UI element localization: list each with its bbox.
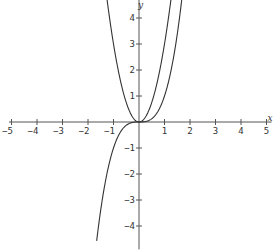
x-tick-label: −5 [2, 126, 13, 136]
y-tick-label: 2 [130, 65, 135, 75]
axes [9, 0, 272, 249]
x-tick-label: 5 [264, 126, 269, 136]
y-tick-label: 3 [130, 39, 135, 49]
x-tick-label: −1 [104, 126, 115, 136]
y-tick-label: −3 [124, 195, 135, 205]
y-tick-label: 1 [130, 91, 135, 101]
y-tick-label: −1 [124, 143, 135, 153]
y-tick-label: −2 [124, 169, 135, 179]
x-tick-label: −2 [79, 126, 90, 136]
x-tick-label: −4 [28, 126, 39, 136]
x-tick-label: 3 [213, 126, 218, 136]
y-axis-label: y [137, 0, 144, 10]
x-tick-label: 4 [238, 126, 243, 136]
x-tick-label: 1 [162, 126, 167, 136]
x-tick-label: −3 [53, 126, 64, 136]
x-tick-label: 2 [187, 126, 192, 136]
y-tick-label: 4 [130, 13, 135, 23]
x-axis-label: x [268, 113, 273, 123]
function-plot: −5−4−3−2−112345−4−3−2−11234 x y [0, 0, 275, 251]
y-tick-label: −4 [124, 221, 135, 231]
